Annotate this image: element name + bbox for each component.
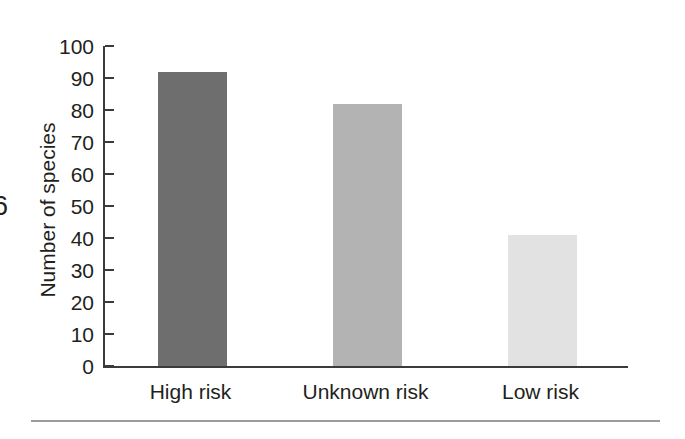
y-tick-label: 90 [71,68,94,89]
y-tick-label: 50 [71,196,94,217]
y-tick-mark [105,173,114,175]
y-tick-mark [105,77,114,79]
bar-chart-figure: 6 Number of species 01020304050607080901… [0,0,685,439]
y-tick: 50 [103,205,114,207]
y-tick-label: 100 [59,36,94,57]
y-tick-mark [105,109,114,111]
y-tick-label: 70 [71,132,94,153]
y-tick: 80 [103,109,114,111]
y-tick: 30 [103,269,114,271]
y-tick: 10 [103,333,114,335]
plot-area: 0102030405060708090100 High riskUnknown … [103,46,628,366]
y-tick-mark [105,269,114,271]
y-tick: 0 [103,365,114,367]
page-edge-glyph: 6 [0,193,8,220]
y-tick-label: 40 [71,228,94,249]
y-tick-label: 80 [71,100,94,121]
y-tick-mark [105,365,114,367]
y-tick: 40 [103,237,114,239]
y-tick-mark [105,237,114,239]
bar [333,104,402,366]
y-tick: 70 [103,141,114,143]
y-tick: 90 [103,77,114,79]
x-axis-line [103,366,628,368]
y-tick-label: 20 [71,292,94,313]
y-tick-mark [105,45,114,47]
y-tick-label: 0 [82,356,94,377]
y-tick-label: 10 [71,324,94,345]
y-axis-title: Number of species [36,95,60,325]
x-axis-label: Unknown risk [278,380,453,404]
bar [508,235,577,366]
y-tick: 100 [103,45,114,47]
y-tick: 20 [103,301,114,303]
y-tick-mark [105,141,114,143]
y-tick-mark [105,301,114,303]
y-tick-mark [105,205,114,207]
y-tick: 60 [103,173,114,175]
x-axis-label: Low risk [453,380,628,404]
bar [158,72,227,366]
y-tick-mark [105,333,114,335]
y-tick-label: 30 [71,260,94,281]
footer-rule [31,420,660,422]
x-axis-label: High risk [103,380,278,404]
y-tick-label: 60 [71,164,94,185]
